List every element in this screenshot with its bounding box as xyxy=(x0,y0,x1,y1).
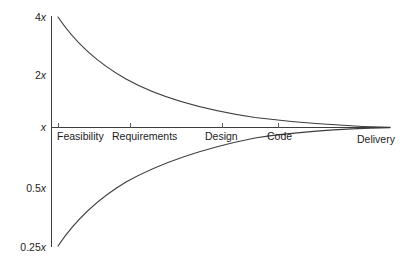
x-axis-label-feasibility: Feasibility xyxy=(57,130,104,142)
y-axis-label-0-5x-number: 0.5 xyxy=(26,182,41,194)
upper-bound-curve xyxy=(58,17,390,127)
y-axis-label-4x: 4x xyxy=(35,11,47,23)
y-axis-label-0-5x-variable: x xyxy=(40,182,47,194)
y-axis-label-0-25x-number: 0.25 xyxy=(20,241,41,253)
x-axis-label-delivery: Delivery xyxy=(357,133,396,145)
chart-canvas: 4x 2x x 0.5x 0.25x Feasibility Requireme… xyxy=(0,0,416,263)
x-axis-label-design: Design xyxy=(205,130,238,142)
y-axis-label-2x-variable: x xyxy=(40,69,47,81)
y-axis-label-0-5x: 0.5x xyxy=(26,182,47,194)
y-axis-label-4x-variable: x xyxy=(40,11,47,23)
y-axis-label-x: x xyxy=(40,121,47,133)
x-axis-label-requirements: Requirements xyxy=(112,130,177,142)
y-axis-label-2x: 2x xyxy=(35,69,47,81)
y-axis-label-0-25x-variable: x xyxy=(40,241,47,253)
lower-bound-curve xyxy=(58,128,390,246)
y-axis-label-x-variable: x xyxy=(40,121,47,133)
y-axis-label-0-25x: 0.25x xyxy=(20,241,46,253)
cone-of-uncertainty-chart: 4x 2x x 0.5x 0.25x Feasibility Requireme… xyxy=(0,0,416,263)
x-axis-label-code: Code xyxy=(267,130,292,142)
